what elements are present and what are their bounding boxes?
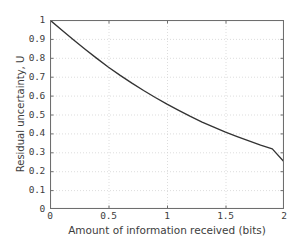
x-tick-label: 1 bbox=[164, 210, 169, 221]
plot-svg bbox=[50, 20, 284, 209]
x-tick-label: 0 bbox=[47, 210, 52, 221]
grid-lines bbox=[50, 20, 284, 209]
x-tick-label: 1.5 bbox=[217, 210, 233, 221]
data-line-series-0 bbox=[50, 20, 284, 162]
chart-figure: Residual uncertainty, U 00.10.20.30.40.5… bbox=[0, 0, 301, 245]
plot-area bbox=[50, 20, 284, 209]
tick-marks bbox=[50, 20, 284, 209]
x-tick-label: 2 bbox=[281, 210, 286, 221]
x-tick-label: 0.5 bbox=[100, 210, 116, 221]
plot-frame bbox=[51, 21, 284, 209]
x-axis-title: Amount of information received (bits) bbox=[50, 224, 284, 237]
